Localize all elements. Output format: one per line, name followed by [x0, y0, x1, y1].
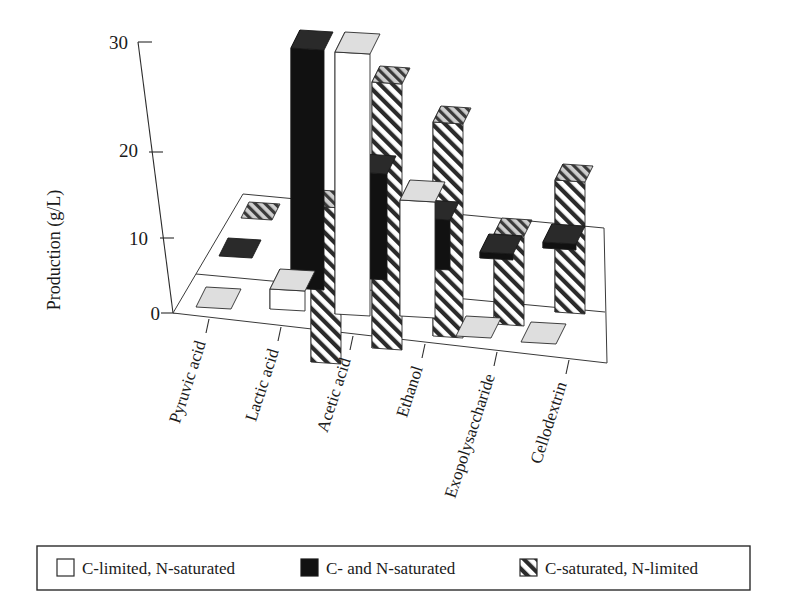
figure-3d-bar-chart: Production (g/L) 30 20 10 0: [0, 0, 787, 603]
black-square-icon: [301, 559, 318, 576]
y-tick-label-30: 30: [109, 32, 128, 53]
legend-label-2: C-saturated, N-limited: [545, 559, 698, 578]
legend: C-limited, N-saturated C- and N-saturate…: [37, 546, 750, 590]
legend-item-c-limited-n-saturated[interactable]: C-limited, N-saturated: [57, 559, 235, 578]
x-category-label-cellodextrin: Cellodextrin: [526, 379, 570, 466]
y-axis-line: [138, 42, 173, 313]
y-tick-label-20: 20: [119, 140, 138, 161]
legend-item-c-saturated-n-limited[interactable]: C-saturated, N-limited: [520, 559, 698, 578]
chart-canvas: Production (g/L) 30 20 10 0: [0, 0, 787, 603]
hatched-square-icon: [520, 559, 537, 576]
legend-label-0: C-limited, N-saturated: [82, 559, 235, 578]
x-category-label-exopolysaccharide: Exopolysaccharide: [441, 371, 499, 500]
y-tick-label-10: 10: [129, 228, 148, 249]
x-category-label-acetic-acid: Acetic acid: [313, 355, 355, 435]
white-square-icon: [57, 559, 74, 576]
x-category-label-pyruvic-acid: Pyruvic acid: [165, 338, 210, 426]
x-category-label-ethanol: Ethanol: [392, 363, 426, 419]
y-tick-label-0: 0: [151, 303, 161, 324]
y-axis-title: Production (g/L): [44, 190, 65, 310]
legend-label-1: C- and N-saturated: [326, 559, 456, 578]
x-category-label-lactic-acid: Lactic acid: [242, 346, 283, 424]
